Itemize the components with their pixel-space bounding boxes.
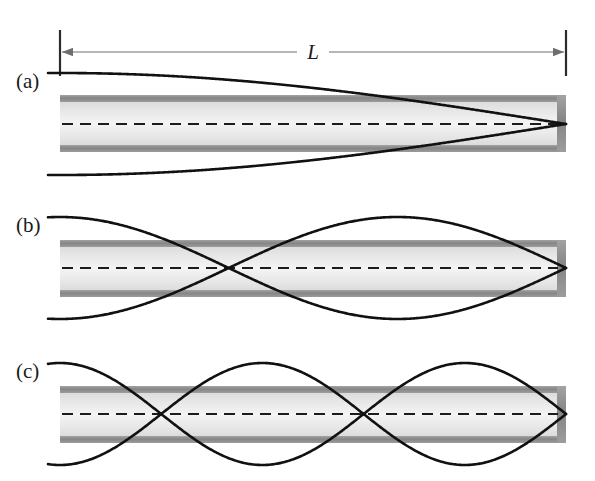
tube-wall-top-c: [60, 386, 566, 393]
tube-wall-bottom-b: [60, 290, 566, 297]
standing-wave-figure: L (a)(b)(c): [0, 0, 595, 481]
tube-wall-top-a: [60, 95, 566, 102]
panel-label-a: (a): [16, 69, 39, 93]
tube-wall-bottom-a: [60, 145, 566, 152]
panel-label-c: (c): [16, 359, 39, 383]
panel-label-b: (b): [16, 213, 41, 237]
dimension-label-L: L: [306, 40, 319, 64]
tube-wall-top-b: [60, 240, 566, 247]
panels-container: (a)(b)(c): [16, 69, 566, 465]
tube-wall-bottom-c: [60, 436, 566, 443]
